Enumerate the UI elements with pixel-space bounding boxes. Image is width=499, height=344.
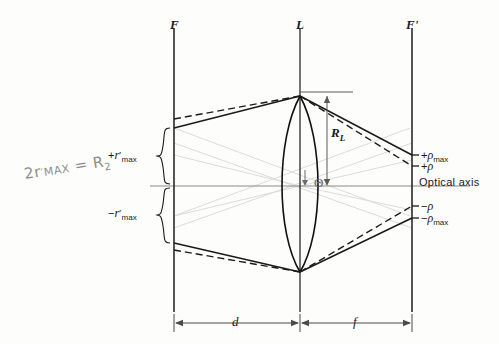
brace-positive-r-max xyxy=(157,128,170,184)
radius-arrowhead-down xyxy=(324,179,330,186)
dim-arrow-f-left xyxy=(301,320,309,326)
minus-rho-max-subscript: max xyxy=(433,218,448,227)
positive-r-max-subscript: max xyxy=(122,155,137,164)
optical-axis-label: Optical axis xyxy=(419,177,479,188)
distance-d-label: d xyxy=(232,315,239,328)
dim-arrow-f-right xyxy=(403,320,411,326)
ray-out-upper-solid xyxy=(300,96,412,155)
plus-rho-label: +ρ xyxy=(421,160,433,172)
annotation-equals: = xyxy=(73,155,89,175)
plus-rho-max-subscript: max xyxy=(433,155,448,164)
ray-in-upper-solid xyxy=(174,96,300,128)
ray-in-lower-solid xyxy=(174,243,300,272)
negative-r-max-subscript: max xyxy=(122,213,137,222)
plane-label-front-focal: F xyxy=(170,18,179,31)
bottom-dimension-lines xyxy=(174,314,412,332)
plane-label-back-focal: F' xyxy=(406,18,418,31)
radius-arrowhead-up xyxy=(324,96,330,103)
ray-in-lower-dashed xyxy=(174,250,300,272)
dim-arrow-d-left xyxy=(175,320,183,326)
negative-r-max-label: −r′max xyxy=(108,207,137,222)
lens-radius-symbol: R xyxy=(331,125,340,140)
positive-r-max-label: +r′max xyxy=(108,149,137,164)
optical-diagram-page: F L F' RL Θ +r′max −r′max +ρmax +ρ Optic… xyxy=(0,0,499,344)
ray-in-upper-dashed xyxy=(174,96,300,119)
angle-theta-label: Θ xyxy=(314,176,323,189)
plus-rho-symbol: ρ xyxy=(427,159,433,173)
construction-ray-6 xyxy=(174,186,300,216)
dim-arrow-d-right xyxy=(291,320,299,326)
focal-length-f-label: f xyxy=(353,315,357,328)
annotation-result-subscript: 2 xyxy=(104,160,113,172)
brace-negative-r-max xyxy=(157,188,170,243)
ray-out-lower-solid xyxy=(300,218,412,272)
minus-rho-max-label: −ρmax xyxy=(421,212,448,227)
lens-radius-label: RL xyxy=(331,126,345,143)
construction-ray-5 xyxy=(174,155,300,186)
annotation-subscript: MAX xyxy=(43,162,71,179)
lens-radius-subscript: L xyxy=(340,133,346,143)
plane-label-lens: L xyxy=(296,18,304,31)
